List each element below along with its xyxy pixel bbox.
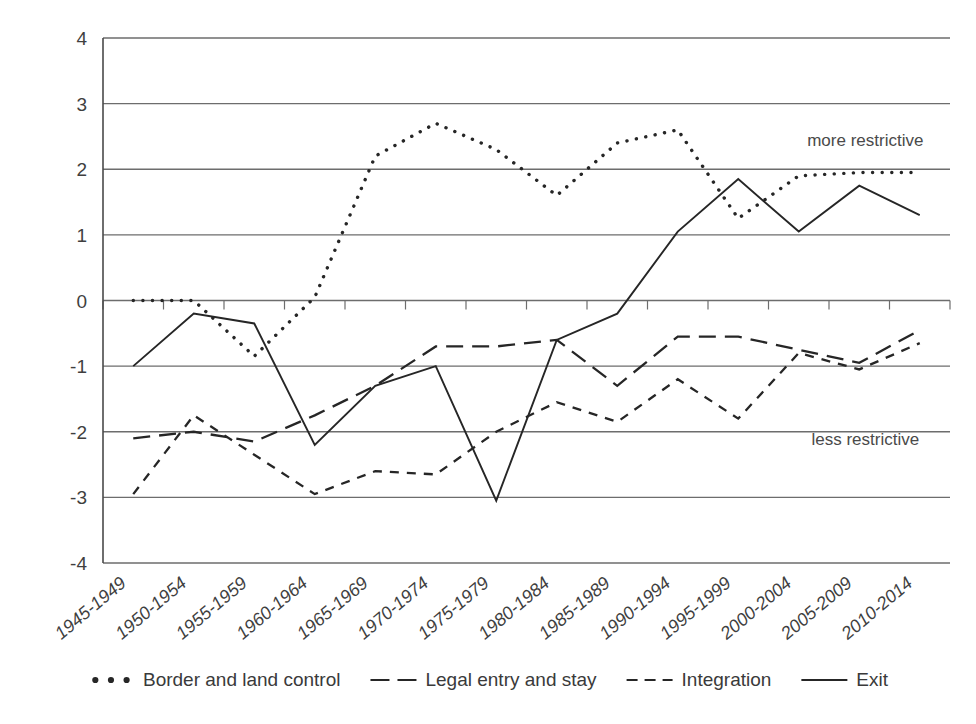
line-chart: 43210-1-2-3-4 1945-19491950-19541955-195… <box>0 0 976 724</box>
x-axis-tickmarks <box>103 301 950 310</box>
y-axis-tick-labels: 43210-1-2-3-4 <box>70 28 87 574</box>
dotted-marker <box>123 677 129 683</box>
chart-annotations: more restrictiveless restrictive <box>807 131 923 449</box>
x-axis-category-labels: 1945-19491950-19541955-19591960-19641965… <box>51 573 916 644</box>
y-tick-label: 4 <box>76 28 87 49</box>
y-tick-label: -3 <box>70 487 87 508</box>
dotted-marker <box>108 677 114 683</box>
series-line-border-and-land-control <box>133 123 920 356</box>
y-tick-label: 2 <box>76 159 87 180</box>
series-line-exit <box>133 179 920 501</box>
y-tick-label: -1 <box>70 356 87 377</box>
legend-item[interactable]: Integration <box>627 669 772 690</box>
y-tick-label: 1 <box>76 225 87 246</box>
legend-label: Exit <box>856 669 888 690</box>
y-tick-label: 0 <box>76 291 87 312</box>
y-tick-label: -4 <box>70 553 87 574</box>
chart-figure: 43210-1-2-3-4 1945-19491950-19541955-195… <box>0 0 976 724</box>
legend-item[interactable]: Exit <box>801 669 888 690</box>
legend-item[interactable]: Border and land control <box>92 669 340 690</box>
legend-item[interactable]: Legal entry and stay <box>370 669 597 690</box>
legend-label: Integration <box>682 669 772 690</box>
y-tick-label: 3 <box>76 94 87 115</box>
data-series-group <box>133 123 920 500</box>
dotted-marker <box>92 677 98 683</box>
annotation-more-restrictive: more restrictive <box>807 131 923 150</box>
annotation-less-restrictive: less restrictive <box>811 430 919 449</box>
legend-label: Border and land control <box>143 669 341 690</box>
series-line-legal-entry-and-stay <box>133 330 920 442</box>
chart-legend: Border and land controlLegal entry and s… <box>92 669 889 690</box>
y-tick-label: -2 <box>70 422 87 443</box>
legend-label: Legal entry and stay <box>425 669 597 690</box>
